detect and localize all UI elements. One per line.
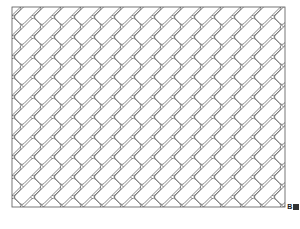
brick-unit [0,0,22,5]
brick-unit [74,209,102,229]
brick-unit [294,117,300,145]
brick-unit [0,129,2,157]
brick-unit [294,49,300,77]
brick-unit [34,209,62,229]
brick-unit [294,17,300,45]
brick-unit [134,0,162,5]
brick-unit [154,209,182,229]
brick-unit [214,209,242,229]
brick-unit [74,0,102,5]
brick-unit [0,197,2,225]
brick-unit [174,0,202,5]
brick-unit [0,29,2,57]
brick-unit [0,217,2,229]
brick-unit [174,217,202,229]
brick-unit [0,137,2,165]
brick-unit [294,169,300,197]
brick-unit [294,77,300,105]
brick-unit [14,0,42,5]
brick-unit [294,0,300,5]
corner-label-text: B [287,202,292,211]
brick-unit [254,209,282,229]
brick-unit [294,157,300,185]
brick-unit [94,0,122,5]
brick-unit [294,0,300,17]
brick-unit [0,37,2,65]
brick-unit [0,169,2,197]
brick-unit [94,209,122,229]
brick-unit [0,209,2,229]
brick-unit [0,177,2,205]
corner-label-block-icon [293,204,299,210]
brick-unit [94,217,122,229]
brick-unit [294,129,300,157]
brick-unit [134,209,162,229]
brick-unit [54,0,82,5]
brick-unit [0,209,22,229]
drawing-canvas: B [0,0,300,229]
brick-unit [294,149,300,177]
brick-unit [294,97,300,125]
brick-units-group [0,0,300,229]
brick-unit [114,209,142,229]
brick-unit [234,217,262,229]
brick-unit [0,77,2,105]
brick-unit [34,0,62,5]
brick-unit [294,0,300,25]
brick-unit [274,217,300,229]
brick-unit [0,149,2,177]
corner-label: B [287,202,299,211]
brick-unit [14,209,42,229]
brick-unit [174,209,202,229]
brick-unit [14,217,42,229]
brick-unit [114,217,142,229]
brick-unit [0,189,2,217]
brick-unit [0,57,2,85]
brick-unit [294,109,300,137]
brick-unit [294,217,300,229]
brick-unit [0,69,2,97]
brick-unit [294,209,300,229]
brick-unit [294,37,300,65]
brick-unit [114,0,142,5]
brick-unit [294,9,300,37]
brick-unit [194,0,222,5]
brick-unit [74,217,102,229]
brick-unit [0,0,2,17]
brick-unit [0,49,2,77]
brick-unit [234,0,262,5]
herringbone-pattern-drawing [0,0,300,229]
brick-unit [0,0,2,5]
brick-unit [0,17,2,45]
brick-unit [214,217,242,229]
brick-unit [0,97,2,125]
brick-unit [294,29,300,57]
brick-unit [154,217,182,229]
brick-unit [54,217,82,229]
brick-unit [0,0,2,25]
brick-unit [274,0,300,5]
brick-unit [294,89,300,117]
brick-unit [294,69,300,97]
brick-unit [234,209,262,229]
brick-unit [254,217,282,229]
brick-unit [0,9,2,37]
brick-unit [254,0,282,5]
brick-unit [274,209,300,229]
brick-unit [134,217,162,229]
brick-unit [54,209,82,229]
brick-unit [194,217,222,229]
brick-unit [214,0,242,5]
brick-unit [294,57,300,85]
brick-unit [0,157,2,185]
brick-unit [34,217,62,229]
brick-unit [294,137,300,165]
brick-unit [0,217,22,229]
brick-unit [0,117,2,145]
brick-unit [0,89,2,117]
brick-unit [154,0,182,5]
brick-unit [194,209,222,229]
brick-unit [0,109,2,137]
